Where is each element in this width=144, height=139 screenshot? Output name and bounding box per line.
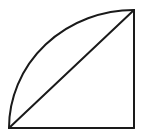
quarter-circle-diagram: [0, 0, 144, 139]
chord-line: [9, 10, 134, 128]
